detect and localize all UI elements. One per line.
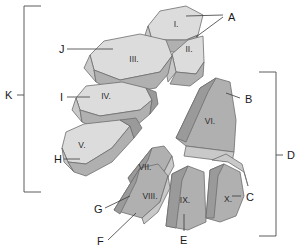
segment-label-vi: VI. xyxy=(205,116,215,126)
segment-label-iv: IV. xyxy=(101,91,111,101)
segment-block-v xyxy=(62,118,142,176)
bracket-k: K xyxy=(5,6,41,192)
callout-label-f: F xyxy=(97,235,104,247)
leader-f xyxy=(108,213,136,240)
callout-label-j: J xyxy=(59,43,65,55)
segment-label-x: X. xyxy=(224,194,232,204)
callout-label-e: E xyxy=(180,234,187,246)
segment-label-ii: II. xyxy=(185,44,192,54)
lung-segment-diagram: .fl { fill:#dcdcdc; stroke:#6d6d6d; stro… xyxy=(0,0,302,249)
bracket-d: D xyxy=(259,72,295,236)
callout-label-c: C xyxy=(246,191,254,203)
segment-label-v: V. xyxy=(78,140,85,150)
callout-label-b: B xyxy=(245,93,252,105)
segment-label-ix: IX. xyxy=(180,195,190,205)
callout-label-g: G xyxy=(94,203,103,215)
bracket-label-d: D xyxy=(287,149,295,161)
diagram-canvas: .fl { fill:#dcdcdc; stroke:#6d6d6d; stro… xyxy=(0,0,302,249)
segment-label-i: I. xyxy=(174,19,179,29)
segment-block-x xyxy=(206,154,248,222)
segment-label-iii: III. xyxy=(129,54,138,64)
callout-label-h: H xyxy=(54,153,62,165)
callout-label-a: A xyxy=(228,11,236,23)
segment-label-viii: VIII. xyxy=(142,191,157,201)
callout-label-i: I xyxy=(60,91,63,103)
bracket-label-k: K xyxy=(5,89,13,101)
segment-label-vii: VII. xyxy=(139,162,152,172)
